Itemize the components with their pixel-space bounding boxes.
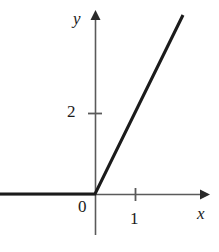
origin-label: 0 <box>78 198 87 215</box>
arrow-up-icon <box>91 10 101 20</box>
figure-container: y x 0 1 2 <box>0 0 219 252</box>
x-axis-label: x <box>197 205 205 222</box>
x-tick-label-1: 1 <box>130 210 139 227</box>
y-axis <box>91 10 101 235</box>
plot-svg <box>0 0 219 252</box>
function-curve <box>0 15 183 194</box>
y-tick-label-2: 2 <box>67 103 76 120</box>
y-axis-label: y <box>73 10 81 27</box>
function-path <box>0 15 183 194</box>
arrow-right-icon <box>200 190 210 200</box>
